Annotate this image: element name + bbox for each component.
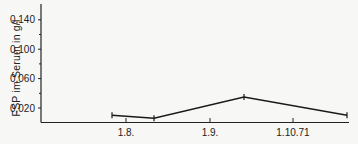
- y-ticks: 0,0200,0600,1000,140: [10, 14, 41, 113]
- y-tick-label: 0,020: [10, 103, 35, 114]
- x-tick-label: 1.8.: [118, 127, 135, 138]
- data-series: [112, 94, 347, 121]
- line-chart: 0,0200,0600,1000,140 1.8.1.9.1.10.71: [0, 0, 358, 144]
- x-ticks: 1.8.1.9.1.10.71: [118, 118, 310, 138]
- y-tick-label: 0,060: [10, 73, 35, 84]
- x-tick-label: 1.10.71: [276, 127, 310, 138]
- y-tick-label: 0,140: [10, 14, 35, 25]
- x-tick-label: 1.9.: [202, 127, 219, 138]
- y-tick-label: 0,100: [10, 44, 35, 55]
